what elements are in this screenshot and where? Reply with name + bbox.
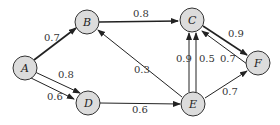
node-d: D: [76, 91, 100, 115]
edge-label-e-c-right: 0.5: [199, 53, 215, 64]
node-label-a: A: [20, 62, 29, 75]
node-label-d: D: [83, 97, 93, 110]
node-label-f: F: [253, 57, 262, 70]
edge-label-b-c: 0.8: [133, 8, 149, 19]
node-label-e: E: [188, 98, 197, 111]
node-b: B: [75, 10, 99, 34]
edge-label-a-d-upper: 0.8: [58, 69, 74, 80]
edge-label-f-c: 0.7: [220, 53, 236, 64]
edge-label-e-f: 0.7: [222, 86, 238, 97]
edge-b-c: [99, 21, 178, 22]
node-c: C: [180, 8, 204, 32]
node-label-b: B: [82, 16, 91, 29]
node-f: F: [246, 51, 270, 75]
node-e: E: [181, 92, 205, 116]
edge-label-a-d-lower: 0.6: [47, 91, 63, 102]
edge-label-e-b: 0.3: [134, 64, 150, 75]
edge-label-a-b: 0.7: [44, 32, 60, 43]
node-a: A: [13, 56, 37, 80]
graph-diagram: 0.7 0.8 0.6 0.8 0.9 0.7 0.9 0.5 0.3 0.6 …: [0, 0, 280, 125]
edge-label-d-e: 0.6: [132, 104, 148, 115]
edge-label-e-c-left: 0.9: [176, 53, 192, 64]
edge-label-c-f: 0.9: [228, 28, 244, 39]
node-label-c: C: [188, 14, 197, 27]
